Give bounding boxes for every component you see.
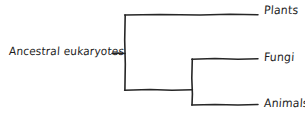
cladogram-canvas: Ancestral eukaryotes Plants Fungi Animal… bbox=[0, 0, 305, 119]
branch-animals bbox=[192, 105, 258, 106]
branch-fungi bbox=[192, 59, 258, 60]
tip-label-plants: Plants bbox=[264, 4, 299, 17]
cladogram-tree-graphic bbox=[0, 0, 305, 119]
root-label-ancestral-eukaryotes: Ancestral eukaryotes bbox=[9, 45, 125, 58]
tip-label-fungi: Fungi bbox=[264, 51, 295, 64]
branch-plants bbox=[125, 14, 258, 15]
tip-label-animals: Animals bbox=[264, 97, 305, 110]
node-2-connector bbox=[192, 59, 193, 105]
branch-internal bbox=[125, 90, 193, 91]
node-1-connector bbox=[125, 15, 126, 90]
